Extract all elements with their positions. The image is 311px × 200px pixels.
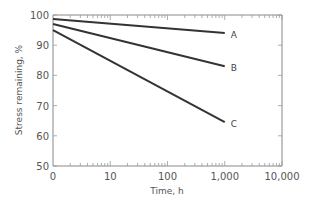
y-axis-title: Stress remaining, %	[14, 44, 24, 135]
series-label-c: C	[231, 119, 237, 129]
series-line-c	[53, 30, 225, 122]
series-label-a: A	[231, 30, 238, 40]
x-axis-title: Time, h	[149, 186, 183, 196]
stress-relaxation-chart: 5060708090100 0101001,00010,000 ABC Time…	[0, 0, 311, 200]
y-tick-label: 60	[36, 131, 49, 142]
y-tick-label: 70	[36, 101, 49, 112]
y-tick-label: 80	[36, 70, 49, 81]
y-tick-label: 100	[30, 10, 49, 21]
x-tick-labels: 0101001,00010,000	[50, 171, 300, 182]
series-label-b: B	[231, 63, 237, 73]
x-minor-ticks	[70, 15, 282, 166]
data-series: ABC	[53, 19, 238, 129]
x-tick-label: 1,000	[210, 171, 239, 182]
x-tick-label: 10	[104, 171, 117, 182]
x-tick-label: 0	[50, 171, 56, 182]
y-tick-label: 90	[36, 40, 49, 51]
x-tick-label: 100	[158, 171, 177, 182]
y-tick-label: 50	[36, 161, 49, 172]
x-tick-label: 10,000	[265, 171, 300, 182]
y-ticks: 5060708090100	[30, 10, 282, 172]
